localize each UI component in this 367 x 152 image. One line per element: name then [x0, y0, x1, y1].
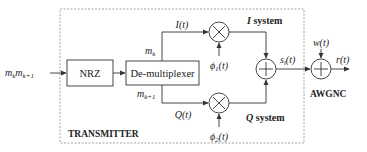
phi1-label: ϕ1(t) [210, 60, 229, 73]
q-branch-line [162, 85, 208, 103]
transmitter-block-diagram: mkmk+1 NRZ De-multiplexer mk I(t) mk+1 Q… [0, 0, 367, 152]
awgnc-label: AWGNC [310, 89, 347, 99]
noise-label: w(t) [313, 37, 330, 49]
i-multiplier [209, 22, 229, 42]
demux-output-mk1: mk+1 [137, 88, 156, 101]
q-multiplier [209, 93, 229, 113]
i-system-label: I system [246, 15, 283, 26]
i-branch-line [162, 32, 208, 61]
i-to-sum-line [229, 32, 266, 58]
transmitter-summer [256, 59, 276, 79]
demux-output-mk: mk [145, 45, 156, 58]
received-label: r(t) [336, 54, 350, 66]
nrz-label: NRZ [80, 68, 101, 79]
si-output-label: si(t) [280, 54, 296, 67]
awgn-summer [311, 59, 331, 79]
q-to-sum-line [229, 80, 266, 103]
i-signal-label: I(t) [175, 19, 189, 31]
phi2-label: ϕ2(t) [210, 131, 229, 144]
q-system-label: Q system [246, 112, 285, 123]
input-label: mkmk+1 [5, 67, 34, 80]
q-signal-label: Q(t) [175, 109, 192, 121]
demultiplexer-label: De-multiplexer [130, 68, 195, 79]
transmitter-label: TRANSMITTER [68, 129, 139, 139]
